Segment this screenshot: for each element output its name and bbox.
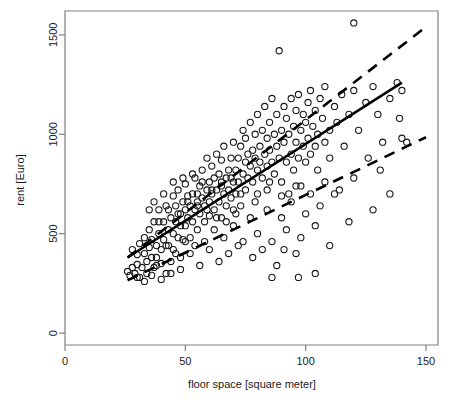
y-tick-label: 500 (47, 224, 59, 242)
plot-canvas: 050100150 050010001500 floor space [squa… (0, 0, 464, 410)
y-tick-label: 1000 (47, 122, 59, 146)
x-tick-label: 150 (417, 355, 435, 367)
x-axis-title: floor space [square meter] (188, 378, 316, 390)
x-tick-label: 100 (296, 355, 314, 367)
scatter-plot-figure: 050100150 050010001500 floor space [squa… (0, 0, 464, 410)
figure-background (0, 0, 464, 410)
x-tick-label: 50 (179, 355, 191, 367)
y-axis-title: rent [Euro] (14, 154, 26, 205)
x-tick-label: 0 (62, 355, 68, 367)
y-tick-label: 1500 (47, 23, 59, 47)
y-tick-label: 0 (47, 330, 59, 336)
